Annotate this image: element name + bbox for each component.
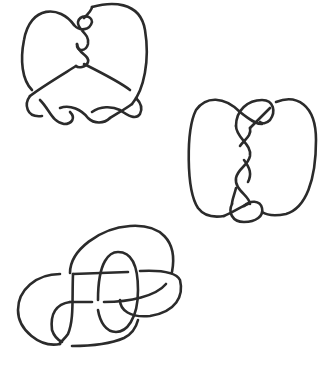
knot-middle-right bbox=[189, 99, 316, 222]
knot-top-left bbox=[22, 4, 147, 124]
knot-diagrams bbox=[0, 0, 331, 377]
knot-bottom-left bbox=[18, 226, 181, 346]
